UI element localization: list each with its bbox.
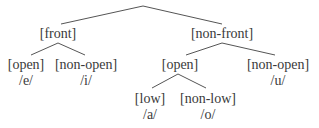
node-front-non-open: [non-open] bbox=[55, 57, 117, 72]
node-front-open: [open] bbox=[8, 57, 45, 72]
branch-line bbox=[58, 43, 85, 55]
node-i: /i/ bbox=[80, 73, 92, 88]
branch-line bbox=[222, 43, 275, 55]
branch-line bbox=[31, 43, 58, 55]
node-a: /a/ bbox=[143, 107, 157, 122]
node-non-front: [non-front] bbox=[191, 26, 253, 41]
node-nonfront-non-open: [non-open] bbox=[247, 57, 309, 72]
branch-line bbox=[152, 74, 178, 88]
branch-line bbox=[61, 6, 143, 24]
branch-line bbox=[143, 6, 222, 24]
vowel-feature-tree: [front][non-front][open]/e/[non-open]/i/… bbox=[0, 0, 319, 128]
node-low: [low] bbox=[135, 91, 165, 106]
node-e: /e/ bbox=[19, 73, 33, 88]
node-nonfront-open: [open] bbox=[162, 57, 199, 72]
node-o: /o/ bbox=[201, 107, 216, 122]
branch-line bbox=[186, 43, 222, 55]
node-non-low: [non-low] bbox=[180, 91, 236, 106]
node-u: /u/ bbox=[271, 73, 286, 88]
branch-line bbox=[178, 74, 206, 88]
node-front: [front] bbox=[40, 26, 77, 41]
